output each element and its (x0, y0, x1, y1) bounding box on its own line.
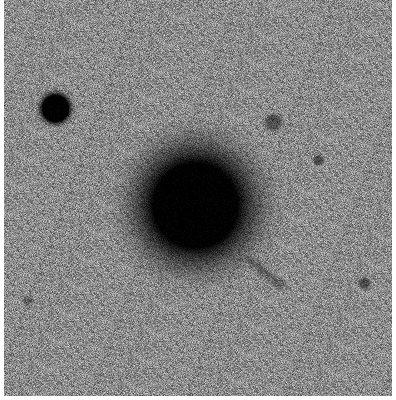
astronomical-image (4, 0, 392, 396)
image-canvas (4, 0, 392, 396)
